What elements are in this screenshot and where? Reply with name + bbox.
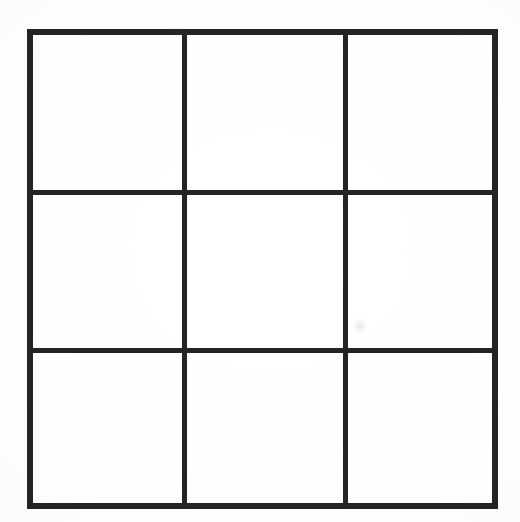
grid-border-left <box>27 29 33 509</box>
grid-horizontal-divider-1 <box>27 190 498 195</box>
grid-cell-r3c3[interactable] <box>346 350 492 503</box>
grid-cell-r1c1[interactable] <box>33 35 180 187</box>
grid-border-bottom <box>27 503 498 509</box>
grid-cell-r3c1[interactable] <box>33 350 180 503</box>
grid-cell-r2c2[interactable] <box>185 192 341 345</box>
grid-cell-r2c1[interactable] <box>33 192 180 345</box>
grid-vertical-divider-1 <box>182 29 187 509</box>
grid-border-top <box>27 29 498 35</box>
grid-cell-r3c2[interactable] <box>185 350 341 503</box>
grid-cell-r2c3[interactable] <box>346 192 492 345</box>
grid-border-right <box>492 29 498 509</box>
grid-cell-layer <box>27 29 498 509</box>
grid-cell-r1c2[interactable] <box>185 35 341 187</box>
page-canvas <box>0 0 520 522</box>
grid-cell-r1c3[interactable] <box>346 35 492 187</box>
grid-vertical-divider-2 <box>343 29 348 509</box>
three-by-three-grid <box>27 29 498 509</box>
grid-horizontal-divider-2 <box>27 348 498 353</box>
